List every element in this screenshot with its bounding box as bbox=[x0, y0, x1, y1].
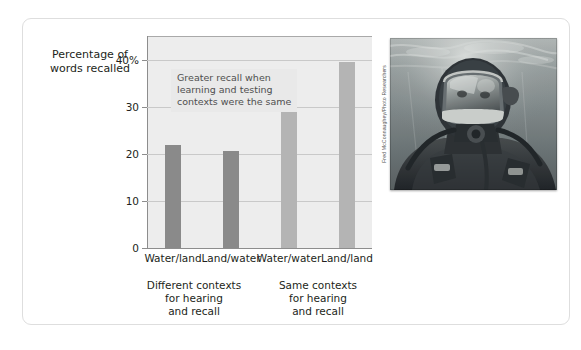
x-axis-line bbox=[147, 248, 372, 249]
annotation-line2: learning and testing bbox=[177, 84, 291, 96]
y-tick-label-30: 30 bbox=[126, 101, 139, 113]
tick-mark-40 bbox=[142, 60, 147, 61]
tick-mark-30 bbox=[142, 107, 147, 108]
figure-root: Percentage of words recalled 010203040% … bbox=[0, 0, 581, 350]
y-tick-label-10: 10 bbox=[126, 195, 139, 207]
x-label-land-land: Land/land bbox=[321, 252, 373, 264]
tick-mark-0 bbox=[142, 248, 147, 249]
group-caption-right: Same contexts for hearing and recall bbox=[279, 279, 357, 318]
scuba-diver-photo bbox=[390, 38, 557, 190]
group-left-line1: Different contexts bbox=[147, 279, 241, 292]
gridline-40 bbox=[147, 60, 372, 61]
bar-land-water bbox=[223, 151, 239, 248]
x-label-land-water: Land/water bbox=[201, 252, 260, 264]
photo-credit-text: Fred McConnaughey/Photo Researchers bbox=[381, 65, 387, 163]
photo-credit: Fred McConnaughey/Photo Researchers bbox=[378, 38, 390, 190]
bar-land-land bbox=[339, 62, 355, 248]
y-tick-label-20: 20 bbox=[126, 148, 139, 160]
annotation-line1: Greater recall when bbox=[177, 72, 291, 84]
chart-annotation: Greater recall when learning and testing… bbox=[171, 69, 297, 112]
group-left-line3: and recall bbox=[147, 305, 241, 318]
annotation-line3: contexts were the same bbox=[177, 96, 291, 108]
x-label-water-land: Water/land bbox=[144, 252, 201, 264]
group-right-line3: and recall bbox=[279, 305, 357, 318]
group-left-line2: for hearing bbox=[147, 292, 241, 305]
x-label-water-water: Water/water bbox=[257, 252, 322, 264]
group-right-line2: for hearing bbox=[279, 292, 357, 305]
photo-block: Fred McConnaughey/Photo Researchers bbox=[390, 38, 557, 190]
bar-water-water bbox=[281, 104, 297, 248]
tick-mark-10 bbox=[142, 201, 147, 202]
y-axis-line bbox=[147, 36, 148, 249]
group-caption-left: Different contexts for hearing and recal… bbox=[147, 279, 241, 318]
y-tick-label-40: 40% bbox=[116, 54, 139, 66]
bar-chart: 010203040% Water/landLand/waterWater/wat… bbox=[147, 36, 372, 249]
bar-water-land bbox=[165, 145, 181, 248]
group-right-line1: Same contexts bbox=[279, 279, 357, 292]
y-tick-label-0: 0 bbox=[132, 242, 139, 254]
tick-mark-20 bbox=[142, 154, 147, 155]
